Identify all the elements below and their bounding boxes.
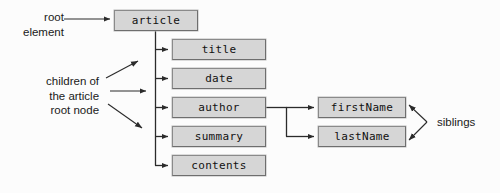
node-article[interactable]: article (114, 10, 198, 31)
node-contents[interactable]: contents (172, 155, 266, 176)
node-date[interactable]: date (172, 68, 266, 89)
node-author[interactable]: author (172, 97, 266, 118)
label-siblings: siblings (437, 115, 475, 130)
node-summary[interactable]: summary (172, 126, 266, 147)
diagram-canvas: article title date author summary conten… (0, 0, 500, 193)
connector-article-trunk (155, 31, 168, 166)
node-firstname[interactable]: firstName (318, 97, 406, 118)
node-title[interactable]: title (172, 39, 266, 60)
label-root-element: rootelement (23, 10, 64, 39)
connector-siblings-label (409, 105, 427, 140)
connector-children-label (106, 61, 146, 128)
connector-author-children (266, 108, 314, 137)
node-lastname[interactable]: lastName (318, 126, 406, 147)
label-children-of-article-root-node: children ofthe articleroot node (46, 74, 99, 118)
